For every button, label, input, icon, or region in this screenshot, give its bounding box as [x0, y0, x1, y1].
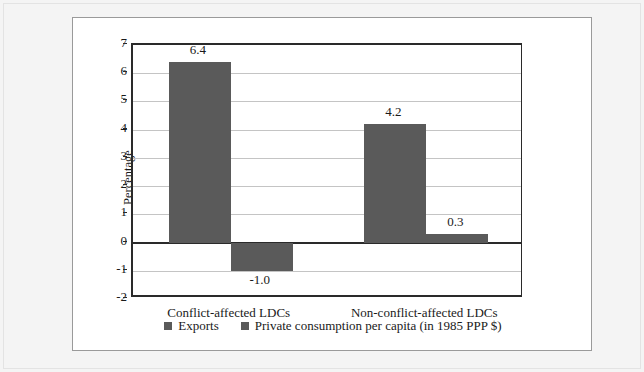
y-axis-tick-mark — [123, 212, 127, 213]
legend-entry: Private consumption per capita (in 1985 … — [241, 318, 502, 334]
bar-value-label: 4.2 — [385, 104, 401, 120]
bar-value-label: 6.4 — [190, 42, 206, 58]
bar — [426, 234, 488, 242]
bar — [364, 124, 426, 243]
chart-panel: Percentage 76543210-1-2 Conflict-affecte… — [72, 17, 592, 351]
bar — [231, 243, 293, 271]
y-axis-tick-mark — [123, 43, 127, 44]
bar-value-label: 0.3 — [447, 214, 463, 230]
legend-entry: Exports — [164, 318, 218, 334]
y-axis-tick-mark — [123, 99, 127, 100]
y-axis-tick-mark — [123, 71, 127, 72]
legend-swatch-icon — [164, 322, 172, 330]
y-axis-tick-mark — [123, 297, 127, 298]
legend-label: Private consumption per capita (in 1985 … — [255, 318, 502, 334]
plot-area — [131, 43, 522, 297]
bar-value-label: -1.0 — [249, 272, 270, 288]
y-axis-tick-mark — [123, 241, 127, 242]
figure-outer-mat: Percentage 76543210-1-2 Conflict-affecte… — [0, 0, 644, 372]
y-axis-tick-mark — [123, 156, 127, 157]
y-axis-tick-mark — [123, 269, 127, 270]
y-axis-tick-area: 76543210-1-2 — [103, 43, 127, 297]
legend-swatch-icon — [241, 322, 249, 330]
y-axis-tick-mark — [123, 128, 127, 129]
gridline — [133, 271, 521, 272]
y-axis-tick-mark — [123, 184, 127, 185]
legend-label: Exports — [178, 318, 218, 334]
chart-legend: ExportsPrivate consumption per capita (i… — [73, 318, 593, 334]
bar — [169, 62, 231, 243]
